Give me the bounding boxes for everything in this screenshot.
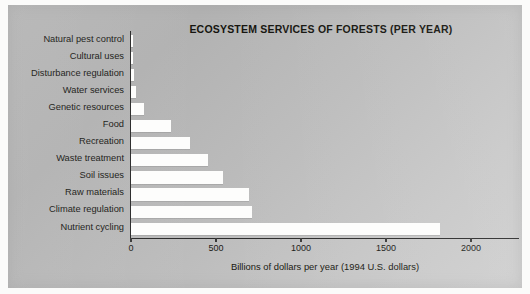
x-axis-tick-label: 500 (208, 243, 223, 253)
category-label: Raw materials (65, 186, 124, 199)
category-label: Natural pest control (43, 33, 124, 46)
bar-row: Natural pest control (131, 32, 519, 49)
chart-screenshot: ECOSYSTEM SERVICES OF FORESTS (PER YEAR)… (0, 0, 530, 294)
category-label: Nutrient cycling (60, 221, 124, 234)
bar (131, 223, 440, 235)
bar-row: Raw materials (131, 186, 519, 203)
bar (131, 35, 133, 47)
bar-row: Genetic resources (131, 100, 519, 117)
bar-row: Food (131, 117, 519, 134)
bar (131, 154, 208, 166)
bar-row: Disturbance regulation (131, 66, 519, 83)
category-label: Cultural uses (70, 50, 124, 63)
category-label: Disturbance regulation (31, 67, 124, 80)
x-axis-tick-label: 1500 (376, 243, 396, 253)
category-label: Water services (63, 84, 124, 97)
bar-row: Soil issues (131, 169, 519, 186)
bar-row: Recreation (131, 135, 519, 152)
x-axis-line (130, 238, 519, 239)
bar-row: Nutrient cycling (131, 220, 519, 237)
category-label: Food (103, 118, 124, 131)
bar (131, 69, 134, 81)
x-axis-title: Billions of dollars per year (1994 U.S. … (131, 261, 519, 272)
bar (131, 86, 136, 98)
bar (131, 52, 133, 64)
chart-panel: ECOSYSTEM SERVICES OF FORESTS (PER YEAR)… (8, 5, 522, 288)
bar-row: Water services (131, 83, 519, 100)
x-axis-tick-label: 0 (128, 243, 133, 253)
category-label: Soil issues (80, 169, 124, 182)
bar-row: Cultural uses (131, 49, 519, 66)
x-axis-tick-label: 1000 (291, 243, 311, 253)
x-axis-tick (130, 238, 131, 242)
category-label: Climate regulation (49, 203, 124, 216)
category-label: Genetic resources (49, 101, 124, 114)
bar (131, 206, 252, 218)
bar (131, 188, 249, 200)
bar (131, 137, 190, 149)
bar-row: Waste treatment (131, 152, 519, 169)
bar (131, 103, 144, 115)
x-axis-tick (470, 238, 471, 242)
bar-row: Climate regulation (131, 203, 519, 220)
plot-area: Natural pest controlCultural usesDisturb… (131, 32, 519, 238)
x-axis-tick-label: 2000 (461, 243, 481, 253)
x-axis-tick (385, 238, 386, 242)
bar (131, 120, 171, 132)
category-label: Waste treatment (56, 152, 124, 165)
bar (131, 171, 223, 183)
category-label: Recreation (79, 135, 124, 148)
x-axis-tick (300, 238, 301, 242)
x-axis-tick (215, 238, 216, 242)
